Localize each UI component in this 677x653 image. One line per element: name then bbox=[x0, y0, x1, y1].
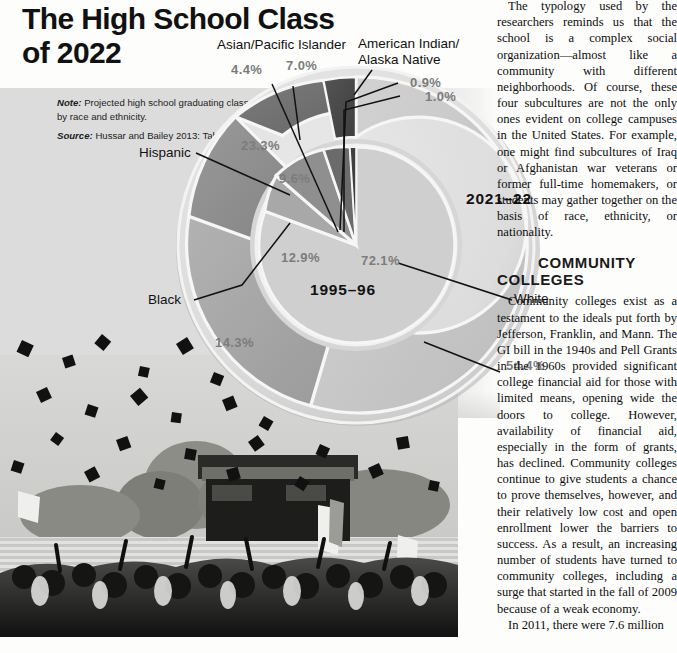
value-asian-outer: 7.0% bbox=[286, 58, 317, 73]
value-black-inner: 12.9% bbox=[281, 250, 320, 265]
note-label: Note: bbox=[57, 97, 82, 108]
value-asian-inner: 4.4% bbox=[231, 62, 262, 77]
article-paragraph-3: In 2011, there were 7.6 million bbox=[497, 617, 677, 633]
value-native-inner: 0.9% bbox=[410, 75, 441, 90]
article-paragraph-1: The typology used by the researchers rem… bbox=[497, 0, 677, 241]
value-hispanic-outer: 23.3% bbox=[241, 138, 280, 153]
label-american-indian: American Indian/ Alaska Native bbox=[358, 36, 459, 67]
label-hispanic: Hispanic bbox=[139, 145, 191, 161]
community-colleges-heading: COMMUNITY COLLEGES bbox=[497, 254, 677, 289]
source-label: Source: bbox=[57, 130, 93, 141]
label-black: Black bbox=[148, 292, 181, 308]
article-paragraph-2: Community colleges exist as a testament … bbox=[497, 293, 677, 616]
note-text: Projected high school graduating class o… bbox=[57, 97, 283, 122]
value-hispanic-inner: 9.6% bbox=[279, 171, 310, 186]
value-black-outer: 14.3% bbox=[215, 335, 254, 350]
value-native-outer: 1.0% bbox=[425, 89, 456, 104]
label-asian-pacific-islander: Asian/Pacific Islander bbox=[217, 37, 346, 53]
source-text: Hussar and Bailey 2013: Table 13. bbox=[93, 130, 242, 141]
label-american-indian-line1: American Indian/ bbox=[358, 36, 459, 51]
infographic-page: The High School Class of 2022 Note: Proj… bbox=[0, 0, 677, 653]
label-year-1995-96: 1995–96 bbox=[310, 281, 376, 299]
value-white-inner: 72.1% bbox=[361, 253, 400, 268]
label-american-indian-line2: Alaska Native bbox=[358, 52, 441, 67]
chart-note: Note: Projected high school graduating c… bbox=[57, 96, 287, 123]
article-column: The typology used by the researchers rem… bbox=[497, 0, 677, 633]
